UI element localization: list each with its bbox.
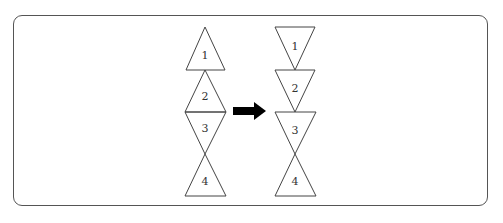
after-label-1: 1 xyxy=(292,40,299,53)
triangle-diagram: 1 2 3 4 1 2 3 4 xyxy=(0,0,503,223)
after-label-3: 3 xyxy=(292,124,299,137)
after-label-2: 2 xyxy=(292,82,299,95)
before-label-4: 4 xyxy=(202,175,209,188)
before-label-1: 1 xyxy=(202,49,209,62)
after-label-4: 4 xyxy=(292,175,299,188)
before-label-3: 3 xyxy=(202,122,209,135)
before-label-2: 2 xyxy=(202,90,209,103)
arrow-right-icon xyxy=(233,102,266,120)
